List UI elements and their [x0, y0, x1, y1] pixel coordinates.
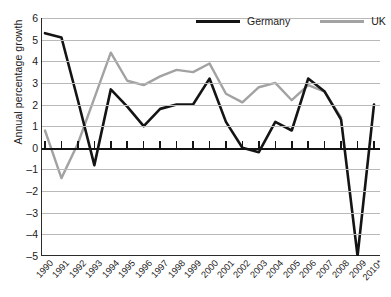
y-tick--2: –2	[16, 186, 38, 196]
gridline	[42, 234, 380, 235]
gridline	[42, 83, 380, 84]
gridline	[42, 148, 380, 150]
x-axis-tick	[258, 141, 260, 148]
x-axis-tick	[225, 141, 227, 148]
x-axis-tick	[307, 141, 309, 148]
x-axis-tick	[242, 141, 244, 148]
series-lines	[42, 18, 381, 256]
x-axis-tick	[61, 141, 63, 148]
gridline	[42, 105, 380, 106]
x-axis-tick	[176, 141, 178, 148]
y-axis-tick-labels: 6543210–1–2–3–4–5	[12, 0, 38, 297]
y-tick--1: –1	[16, 164, 38, 174]
gridline	[42, 213, 380, 214]
x-axis-tick	[275, 141, 277, 148]
x-axis-tick	[44, 141, 46, 148]
legend-swatch-uk	[320, 20, 364, 23]
gridline	[42, 126, 380, 127]
y-tick-1: 1	[16, 121, 38, 131]
legend-swatch-germany	[196, 20, 240, 23]
x-axis-tick	[94, 141, 96, 148]
x-axis-tick	[77, 141, 79, 148]
x-axis-tick	[340, 141, 342, 148]
legend-label-uk: UK	[371, 15, 386, 27]
chart-legend: GermanyUK	[196, 13, 386, 29]
x-axis-tick	[357, 141, 359, 148]
y-tick--4: –4	[16, 229, 38, 239]
x-axis-tick-labels: 1990199119921993199419951996199719981999…	[41, 258, 380, 297]
y-tick-3: 3	[16, 78, 38, 88]
line-chart: Annual percentage growth 6543210–1–2–3–4…	[0, 0, 391, 297]
x-axis-tick	[143, 141, 145, 148]
y-tick--3: –3	[16, 208, 38, 218]
y-tick--5: –5	[16, 251, 38, 261]
plot-area	[41, 18, 380, 256]
x-axis-tick	[209, 141, 211, 148]
x-axis-tick	[291, 141, 293, 148]
gridline	[42, 61, 380, 62]
gridline	[42, 191, 380, 192]
x-axis-tick	[192, 141, 194, 148]
x-axis-tick	[110, 141, 112, 148]
legend-label-germany: Germany	[247, 15, 290, 27]
y-tick-6: 6	[16, 13, 38, 23]
gridline	[42, 169, 380, 170]
x-axis-tick	[324, 141, 326, 148]
y-tick-4: 4	[16, 56, 38, 66]
y-tick-5: 5	[16, 35, 38, 45]
x-axis-tick	[126, 141, 128, 148]
y-tick-0: 0	[16, 143, 38, 153]
gridline	[42, 40, 380, 41]
x-axis-tick	[159, 141, 161, 148]
y-tick-2: 2	[16, 100, 38, 110]
x-axis-tick	[373, 141, 375, 148]
